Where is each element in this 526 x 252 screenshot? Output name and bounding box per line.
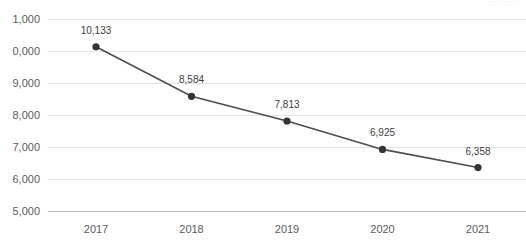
chart-screenshot: — —— · 1,0000,0009,0008,0007,0006,0005,0… (0, 0, 526, 252)
x-axis-tick-label: 2021 (466, 223, 490, 235)
data-point-label: 8,584 (179, 75, 204, 85)
gridline (48, 211, 526, 212)
data-point-label: 6,925 (370, 128, 395, 138)
line-chart-plot-area: 1,0000,0009,0008,0007,0006,0005,000 2017… (48, 19, 526, 211)
data-point-label: 6,358 (465, 147, 490, 157)
y-axis-tick-label: 1,000 (0, 14, 40, 25)
data-point-marker (379, 146, 386, 153)
y-axis-tick-label: 0,000 (0, 46, 40, 57)
data-point-marker (283, 117, 290, 124)
x-axis-tick-label: 2018 (179, 223, 203, 235)
y-axis: 1,0000,0009,0008,0007,0006,0005,000 (0, 19, 40, 211)
data-point-label: 10,133 (81, 26, 112, 36)
x-axis-tick-label: 2020 (370, 223, 394, 235)
x-axis-tick-label: 2017 (84, 223, 108, 235)
data-series-svg (48, 19, 526, 211)
data-point-marker (474, 164, 481, 171)
y-axis-tick-label: 9,000 (0, 78, 40, 89)
clipped-corner-artifact: — —— · (487, 0, 522, 5)
x-axis-tick-label: 2019 (275, 223, 299, 235)
data-point-marker (188, 93, 195, 100)
y-axis-tick-label: 7,000 (0, 142, 40, 153)
data-point-label: 7,813 (274, 100, 299, 110)
y-axis-tick-label: 8,000 (0, 110, 40, 121)
y-axis-tick-label: 5,000 (0, 206, 40, 217)
y-axis-tick-label: 6,000 (0, 174, 40, 185)
data-point-marker (92, 43, 99, 50)
